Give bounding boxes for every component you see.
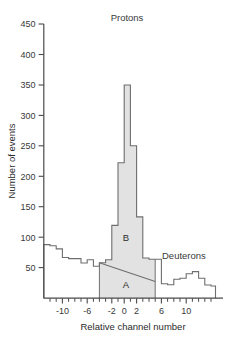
x-tick-label: 6 bbox=[159, 306, 164, 316]
y-tick-label: 200 bbox=[20, 172, 35, 182]
histogram-chart: 450 400 350 300 250 200 150 100 50 bbox=[0, 0, 234, 340]
x-tick-label: 2 bbox=[134, 306, 139, 316]
y-tick-labels: 450 400 350 300 250 200 150 100 50 bbox=[20, 19, 35, 273]
y-tick-label: 300 bbox=[20, 111, 35, 121]
x-tick-label: -6 bbox=[83, 306, 91, 316]
protons-label: Protons bbox=[111, 12, 144, 23]
x-tick-labels: -10 -6 -2 0 2 6 10 bbox=[56, 306, 191, 316]
y-tick-label: 150 bbox=[20, 202, 35, 212]
x-tick-label: -2 bbox=[108, 306, 116, 316]
y-tick-label: 450 bbox=[20, 19, 35, 29]
y-tick-label: 50 bbox=[25, 263, 35, 273]
x-tick-label: -10 bbox=[56, 306, 69, 316]
x-tick-label: 10 bbox=[181, 306, 191, 316]
y-axis-title: Number of events bbox=[6, 123, 17, 198]
shaded-peak-region bbox=[99, 60, 155, 300]
figure-container: 450 400 350 300 250 200 150 100 50 bbox=[0, 0, 234, 340]
region-a-label: A bbox=[123, 279, 130, 290]
x-axis-title: Relative channel number bbox=[80, 321, 185, 332]
y-tick-label: 400 bbox=[20, 50, 35, 60]
x-tick-label: 0 bbox=[122, 306, 127, 316]
y-axis-ticks bbox=[39, 24, 44, 268]
y-tick-label: 100 bbox=[20, 233, 35, 243]
deuterons-label: Deuterons bbox=[162, 250, 206, 261]
region-b-label: B bbox=[123, 232, 129, 243]
y-tick-label: 350 bbox=[20, 80, 35, 90]
y-tick-label: 250 bbox=[20, 141, 35, 151]
